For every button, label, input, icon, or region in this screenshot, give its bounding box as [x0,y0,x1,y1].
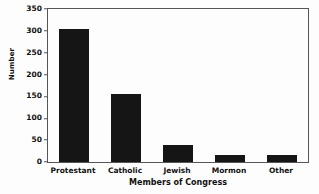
x-axis-tick-label: Mormon [203,166,255,175]
y-axis-tick: 200 [26,71,48,79]
x-axis-tick-label: Other [255,166,307,175]
bars-layer [48,9,308,162]
y-axis-tick-label: 0 [37,158,44,166]
y-axis-title: Number [8,34,16,94]
bar [111,94,141,162]
bar [215,155,245,162]
y-axis-tick-label: 150 [26,93,44,101]
bar [267,155,297,162]
plot-area: 050100150200250300350 [47,8,309,163]
y-axis-tick: 350 [26,5,48,13]
x-axis-tick-label: Protestant [47,166,99,175]
y-axis-tick-label: 100 [26,115,44,123]
y-axis-tick-label: 200 [26,71,44,79]
y-axis-tick-label: 350 [26,5,44,13]
x-axis-title: Members of Congress [47,178,309,187]
bar-slot [59,9,89,162]
y-axis-tick-label: 250 [26,49,44,57]
bar-chart: Number 050100150200250300350 ProtestantC… [0,0,319,194]
y-axis-tick: 0 [37,158,48,166]
bar-slot [215,9,245,162]
x-axis-tick-label: Jewish [151,166,203,175]
bar-slot [111,9,141,162]
y-axis-tick: 250 [26,49,48,57]
y-axis-tick-label: 50 [32,136,44,144]
y-axis-tick: 50 [32,136,48,144]
y-axis-tick: 100 [26,115,48,123]
bar-slot [163,9,193,162]
x-axis-tick-label: Catholic [99,166,151,175]
bar [163,145,193,162]
y-axis-tick-label: 300 [26,27,44,35]
y-axis-tick: 150 [26,93,48,101]
bar-slot [267,9,297,162]
bar [59,29,89,162]
y-axis-tick: 300 [26,27,48,35]
